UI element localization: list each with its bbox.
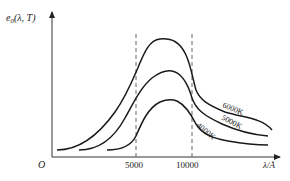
curve-6000k: [57, 39, 272, 150]
origin-label: O: [38, 159, 45, 170]
x-axis-label: λ/Å: [262, 160, 275, 170]
tick-label-10000: 10000: [176, 160, 199, 170]
curve-label-4000k: 4000K: [195, 121, 218, 142]
y-axis-label: e0(λ, T): [6, 12, 36, 25]
blackbody-radiation-chart: e0(λ, T) O 5000 10000 λ/Å 6000K 5000K 40…: [0, 0, 290, 181]
tick-label-5000: 5000: [125, 160, 144, 170]
